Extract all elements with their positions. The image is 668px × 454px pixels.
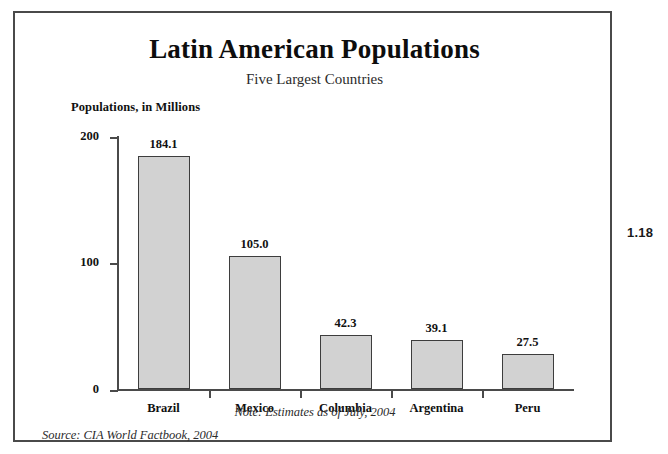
x-tick-mark bbox=[209, 391, 211, 398]
bar-group-columbia[interactable]: 42.3 Columbia bbox=[300, 123, 391, 391]
y-tick-mark bbox=[110, 137, 118, 139]
chart-title: Latin American Populations bbox=[15, 34, 614, 65]
y-tick-mark bbox=[110, 390, 118, 392]
bar-value-columbia: 42.3 bbox=[335, 316, 357, 331]
bar-group-mexico[interactable]: 105.0 Mexico bbox=[209, 123, 300, 391]
bar-group-brazil[interactable]: 184.1 Brazil bbox=[118, 123, 209, 391]
bar-brazil[interactable] bbox=[138, 156, 190, 389]
x-tick-mark bbox=[482, 391, 484, 398]
y-tick-label: 100 bbox=[80, 255, 99, 270]
bar-value-mexico: 105.0 bbox=[240, 237, 268, 252]
figure-number: 1.18 bbox=[627, 225, 653, 240]
bar-argentina[interactable] bbox=[411, 340, 463, 389]
y-tick-label: 200 bbox=[80, 129, 99, 144]
y-axis-title: Populations, in Millions bbox=[71, 100, 200, 115]
y-tick-mark bbox=[110, 263, 118, 265]
bar-peru[interactable] bbox=[502, 354, 554, 389]
bar-value-brazil: 184.1 bbox=[149, 137, 177, 152]
chart-note: Note: Estimates as of July, 2004 bbox=[75, 405, 555, 420]
x-tick-mark bbox=[391, 391, 393, 398]
bar-value-peru: 27.5 bbox=[517, 335, 539, 350]
plot-area: 200 100 0 184.1 Brazil 105.0 Mexico 42. bbox=[103, 123, 578, 393]
figure-frame: Latin American Populations Five Largest … bbox=[13, 11, 612, 442]
chart-source: Source: CIA World Factbook, 2004 bbox=[42, 428, 218, 443]
bar-value-argentina: 39.1 bbox=[426, 321, 448, 336]
bar-group-argentina[interactable]: 39.1 Argentina bbox=[391, 123, 482, 391]
bar-columbia[interactable] bbox=[320, 335, 372, 389]
bar-mexico[interactable] bbox=[229, 256, 281, 389]
x-tick-mark bbox=[300, 391, 302, 398]
chart-subtitle: Five Largest Countries bbox=[15, 71, 614, 88]
bar-group-peru[interactable]: 27.5 Peru bbox=[482, 123, 573, 391]
y-tick-label: 0 bbox=[93, 382, 99, 397]
